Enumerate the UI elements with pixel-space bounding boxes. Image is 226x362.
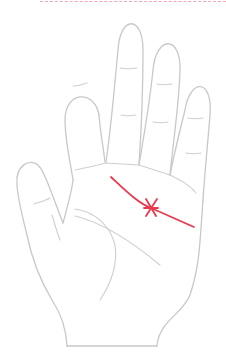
palm-illustration: [0, 0, 226, 362]
cross-mark-icon: [144, 199, 158, 216]
index-finger-outline: [65, 97, 99, 180]
fate-line: [75, 216, 160, 265]
palm-creases: [52, 163, 196, 300]
thumb-outline: [17, 162, 67, 346]
pinky-finger-outline: [170, 87, 210, 200]
finger-base-line: [75, 163, 196, 193]
head-line: [111, 177, 194, 227]
hand-outline: [17, 24, 210, 346]
middle-finger-outline: [106, 24, 143, 165]
head-line-highlight: [111, 177, 194, 227]
palm-right-edge: [157, 200, 203, 346]
